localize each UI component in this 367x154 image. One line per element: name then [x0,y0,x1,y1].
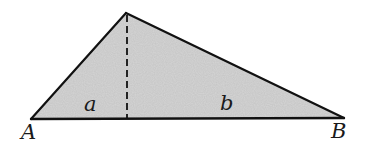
triangle-diagram: a b A B [0,0,367,154]
segment-label-b: b [220,91,233,115]
base-ab [31,118,344,119]
vertex-label-b: B [330,119,346,143]
segment-label-a: a [84,92,97,116]
vertex-label-a: A [19,120,36,144]
diagram-canvas: a b A B [0,0,367,154]
